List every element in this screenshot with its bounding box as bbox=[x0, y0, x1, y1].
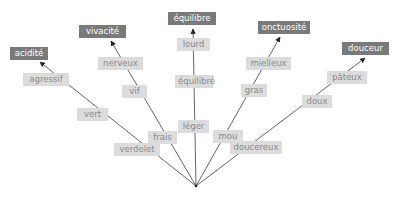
sub-label: frais bbox=[148, 131, 177, 144]
sub-label: léger bbox=[178, 120, 209, 133]
sub-label: doucereux bbox=[230, 141, 282, 154]
main-category-label: équilibre bbox=[168, 12, 216, 25]
main-category-label: onctuosité bbox=[258, 21, 310, 34]
sub-label: mielleux bbox=[246, 57, 291, 70]
sub-label: gras bbox=[241, 84, 267, 97]
sub-label: doux bbox=[302, 95, 332, 108]
sub-label: nerveux bbox=[98, 57, 143, 70]
sub-label: lourd bbox=[177, 38, 210, 51]
sub-label: vif bbox=[122, 85, 147, 98]
arrow-line-2 bbox=[193, 29, 196, 186]
sub-label: pâteux bbox=[327, 71, 367, 84]
main-category-label: vivacité bbox=[79, 25, 126, 38]
origin-point bbox=[195, 185, 198, 188]
sub-label: équilibré bbox=[175, 75, 213, 88]
connector-lines bbox=[0, 0, 398, 198]
sub-label: agressif bbox=[23, 73, 69, 86]
sub-label: vert bbox=[77, 108, 108, 121]
sub-label: verdelet bbox=[114, 143, 160, 156]
main-category-label: acidité bbox=[10, 47, 48, 60]
main-category-label: douceur bbox=[342, 42, 389, 55]
taste-balance-diagram: verdeletvertagressifaciditéfraisvifnerve… bbox=[0, 0, 398, 198]
